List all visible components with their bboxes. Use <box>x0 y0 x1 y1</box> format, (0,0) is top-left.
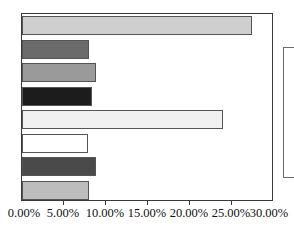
bar-band <box>22 16 273 35</box>
bar-band <box>22 157 273 176</box>
bar-band <box>22 87 273 106</box>
x-axis-tick-label: 30.00% <box>250 206 289 221</box>
bar-band <box>22 181 273 200</box>
legend-box <box>283 47 294 178</box>
x-axis-tick <box>147 201 148 205</box>
x-axis-tick-label: 15.00% <box>128 206 167 221</box>
bar[interactable] <box>22 40 89 59</box>
x-axis-labels: 0.00%5.00%10.00%15.00%20.00%25.00%30.00% <box>0 206 294 226</box>
bar-band <box>22 134 273 153</box>
x-axis-tick-label: 5.00% <box>47 206 79 221</box>
bar-band <box>22 63 273 82</box>
x-axis-tick <box>231 201 232 205</box>
x-axis-tick-label: 20.00% <box>170 206 209 221</box>
bar-band <box>22 110 273 129</box>
bar-band <box>22 40 273 59</box>
bar[interactable] <box>22 181 89 200</box>
bar[interactable] <box>22 110 223 129</box>
x-axis-tick-label: 0.00% <box>8 206 40 221</box>
x-axis-tick <box>105 201 106 205</box>
x-axis-tick-label: 10.00% <box>86 206 125 221</box>
bar[interactable] <box>22 134 88 153</box>
bar-chart: 0.00%5.00%10.00%15.00%20.00%25.00%30.00% <box>0 0 294 232</box>
x-axis-tick <box>63 201 64 205</box>
bar[interactable] <box>22 157 96 176</box>
bar[interactable] <box>22 87 92 106</box>
x-axis-tick <box>189 201 190 205</box>
bar[interactable] <box>22 63 96 82</box>
plot-area <box>21 13 273 201</box>
bars-layer <box>22 14 272 200</box>
bar[interactable] <box>22 16 252 35</box>
x-axis-tick-label: 25.00% <box>212 206 251 221</box>
